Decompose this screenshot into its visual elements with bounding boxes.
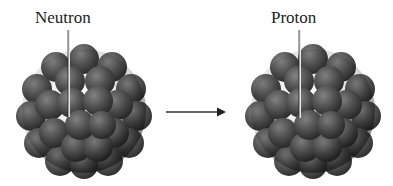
neutron-label: Neutron	[35, 9, 91, 26]
diagram-canvas	[0, 0, 393, 186]
neutron-nucleus	[16, 44, 152, 179]
arrow-right-icon	[166, 108, 226, 117]
proton-label: Proton	[271, 9, 316, 26]
proton-nucleus	[245, 44, 381, 179]
